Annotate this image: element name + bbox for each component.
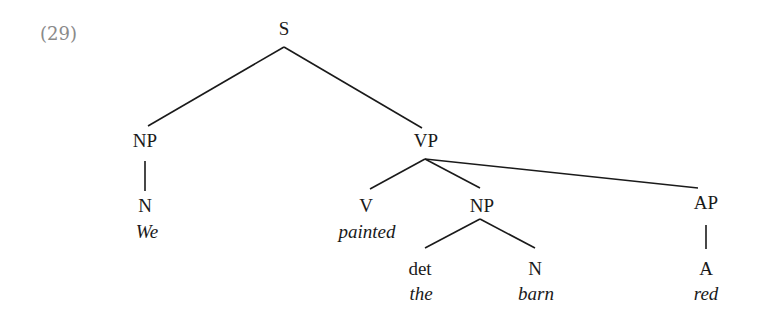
node-vp: VP [414, 130, 438, 151]
node-n-object: N [528, 258, 542, 279]
word-painted: painted [337, 221, 396, 242]
node-np-subject: NP [133, 130, 157, 151]
edge-np-n-obj [480, 219, 535, 248]
word-barn: barn [518, 283, 554, 304]
word-red: red [694, 283, 719, 304]
node-ap: AP [694, 192, 718, 213]
syntax-tree: (29) S NP N We VP V painted NP det the N… [0, 0, 762, 317]
word-the: the [409, 283, 432, 304]
node-a: A [699, 258, 713, 279]
edge-vp-ap [425, 159, 698, 188]
node-np-object: NP [470, 195, 494, 216]
word-we: We [136, 221, 159, 242]
node-v: V [359, 195, 373, 216]
edge-s-np [148, 47, 284, 126]
edge-s-vp [284, 47, 422, 128]
node-n-subject: N [138, 195, 152, 216]
node-det: det [408, 258, 432, 279]
edge-vp-v [370, 159, 425, 189]
edge-np-det [425, 219, 480, 248]
node-s: S [279, 18, 290, 39]
example-number: (29) [40, 23, 77, 44]
tree-nodes: S NP N We VP V painted NP det the N barn… [133, 18, 719, 304]
